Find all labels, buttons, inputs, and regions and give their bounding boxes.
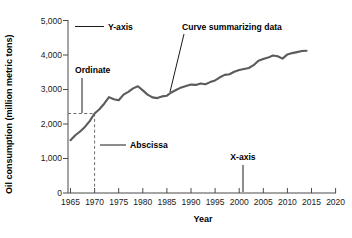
curve-annotation-label: Curve summarizing data <box>182 22 282 32</box>
x-tick-label-2000: 2000 <box>230 197 249 207</box>
oil-consumption-line-chart: Oil consumption (million metric tons) 5,… <box>0 0 352 238</box>
y-axis-title: Oil consumption (million metric tons) <box>4 34 14 194</box>
y-tick-label-2000: 2,000 <box>41 119 63 129</box>
x-tick-label-1995: 1995 <box>206 197 225 207</box>
chart-figure: Oil consumption (million metric tons) 5,… <box>0 0 352 238</box>
x-tick-label-1985: 1985 <box>157 197 176 207</box>
x-tick-label-1980: 1980 <box>133 197 152 207</box>
y-axis-annotation-label: Y-axis <box>108 22 133 32</box>
x-tick-label-1975: 1975 <box>109 197 128 207</box>
x-tick-label-2010: 2010 <box>278 197 297 207</box>
abscissa-annotation-label: Abscissa <box>130 140 168 150</box>
y-tick-label-4000: 4,000 <box>41 50 63 60</box>
x-tick-label-2015: 2015 <box>302 197 321 207</box>
x-tick-label-2005: 2005 <box>254 197 273 207</box>
x-axis-title: Year <box>193 214 213 224</box>
y-tick-label-3000: 3,000 <box>41 84 63 94</box>
x-tick-label-1970: 1970 <box>85 197 104 207</box>
x-axis-annotation-label: X-axis <box>230 152 256 162</box>
y-tick-label-5000: 5,000 <box>41 16 63 26</box>
x-tick-label-2020: 2020 <box>326 197 345 207</box>
ordinate-annotation-label: Ordinate <box>75 65 111 75</box>
curve-annotation-leader <box>170 34 184 92</box>
y-tick-label-1000: 1,000 <box>41 153 63 163</box>
x-tick-label-1965: 1965 <box>61 197 80 207</box>
x-tick-label-1990: 1990 <box>182 197 201 207</box>
